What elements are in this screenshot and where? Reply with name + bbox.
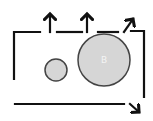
right-bracket-line — [131, 31, 144, 97]
down-right-arrow — [130, 104, 139, 112]
large-circle-label: B — [101, 55, 107, 65]
left-bracket-line — [14, 32, 40, 79]
diagram-canvas — [0, 0, 153, 121]
small-circle — [45, 59, 67, 81]
